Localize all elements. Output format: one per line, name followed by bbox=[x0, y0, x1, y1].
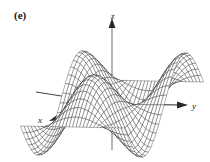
figure-panel: (e) z y x bbox=[0, 0, 210, 162]
y-axis-label: y bbox=[192, 102, 196, 111]
z-axis-label: z bbox=[111, 12, 115, 21]
x-axis-label: x bbox=[38, 116, 42, 125]
y-axis-arrowhead bbox=[177, 102, 188, 109]
surface-plot bbox=[0, 0, 210, 162]
